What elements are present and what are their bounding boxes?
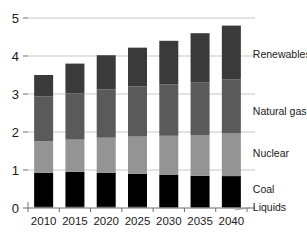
- bar-segment-nuclear: [128, 137, 147, 174]
- bar-stack: [128, 48, 147, 208]
- legend-label-liquids: Liquids: [253, 201, 286, 213]
- bar-segment-natural-gas: [65, 93, 84, 139]
- stacked-bar-chart: 012345 2010201520202025203020352040 Rene…: [0, 0, 307, 240]
- bar-stack: [65, 64, 84, 208]
- y-tick-label: 3: [12, 87, 19, 102]
- x-tick-label: 2020: [93, 215, 119, 227]
- legend-label-nuclear: Nuclear: [253, 147, 290, 159]
- x-tick-label: 2040: [219, 215, 245, 227]
- x-tick-label: 2035: [187, 215, 213, 227]
- bar-segment-nuclear: [222, 134, 241, 177]
- legend-label-coal: Coal: [253, 183, 275, 195]
- y-tick-label: 2: [12, 125, 19, 140]
- x-tick-label: 2015: [62, 215, 88, 227]
- bar-segment-coal: [222, 176, 241, 207]
- y-tick-label: 4: [12, 49, 19, 64]
- bar-stack: [34, 75, 53, 208]
- y-axis-tick-labels: 012345: [12, 11, 28, 216]
- bar-segment-nuclear: [159, 136, 178, 175]
- bar-segment-natural-gas: [222, 80, 241, 134]
- bar-stack: [191, 33, 210, 208]
- bar-segment-natural-gas: [34, 96, 53, 141]
- bar-segment-renewables: [128, 48, 147, 87]
- bar-segment-renewables: [191, 33, 210, 82]
- bar-segment-nuclear: [34, 141, 53, 173]
- bar-segment-coal: [191, 176, 210, 208]
- y-tick-label: 5: [12, 11, 19, 26]
- bar-segment-renewables: [34, 75, 53, 96]
- bar-segment-coal: [128, 174, 147, 207]
- bar-segment-renewables: [222, 26, 241, 80]
- bar-segment-renewables: [97, 55, 116, 89]
- bar-series-group: [34, 26, 241, 209]
- x-axis-tick-labels: 2010201520202025203020352040: [31, 215, 244, 227]
- bar-segment-coal: [34, 173, 53, 207]
- legend-label-natural-gas: Natural gas: [253, 105, 307, 117]
- bar-segment-coal: [97, 173, 116, 207]
- bar-stack: [222, 26, 241, 209]
- bar-segment-natural-gas: [97, 89, 116, 137]
- x-tick-label: 2025: [125, 215, 151, 227]
- bar-segment-natural-gas: [159, 85, 178, 136]
- legend-label-renewables: Renewables: [253, 48, 307, 60]
- bar-segment-nuclear: [191, 135, 210, 176]
- y-tick-label: 0: [12, 201, 19, 216]
- bar-segment-natural-gas: [128, 86, 147, 136]
- chart-canvas: 012345 2010201520202025203020352040 Rene…: [0, 0, 307, 240]
- bar-segment-renewables: [65, 64, 84, 94]
- bar-segment-renewables: [159, 41, 178, 85]
- bar-stack: [97, 55, 116, 208]
- legend: RenewablesNatural gasNuclearCoalLiquids: [235, 48, 307, 213]
- x-tick-label: 2010: [31, 215, 57, 227]
- y-tick-label: 1: [12, 163, 19, 178]
- bar-segment-nuclear: [65, 140, 84, 172]
- bar-segment-nuclear: [97, 138, 116, 173]
- bar-segment-coal: [159, 175, 178, 207]
- bar-segment-natural-gas: [191, 83, 210, 135]
- x-tick-label: 2030: [156, 215, 182, 227]
- bar-segment-coal: [65, 172, 84, 207]
- bar-stack: [159, 41, 178, 208]
